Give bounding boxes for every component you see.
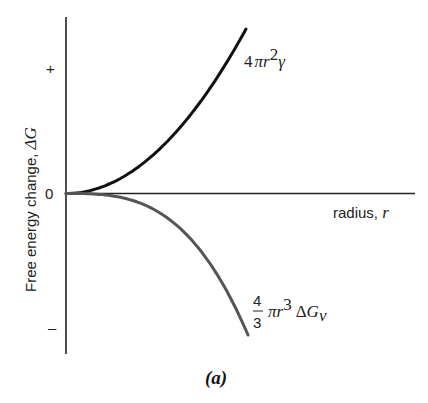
- y-tick-minus: –: [48, 319, 57, 336]
- chart-svg: + 0 – Free energy change, ΔG radius, r 4…: [0, 0, 428, 403]
- volume-energy-label: 4 3 πr3ΔGv: [253, 292, 327, 331]
- y-axis-label: Free energy change, ΔG: [21, 127, 40, 292]
- surface-energy-label: 4πr2γ: [244, 45, 286, 71]
- fraction-numerator: 4: [253, 292, 261, 309]
- figure: + 0 – Free energy change, ΔG radius, r 4…: [0, 0, 428, 403]
- volume-energy-expression: πr3ΔGv: [268, 295, 327, 325]
- figure-caption: (a): [205, 367, 227, 389]
- y-tick-zero: 0: [45, 185, 53, 202]
- y-tick-plus: +: [46, 60, 55, 77]
- surface-energy-curve: [66, 29, 246, 194]
- fraction-denominator: 3: [253, 314, 261, 331]
- x-axis-label: radius, r: [333, 203, 389, 222]
- volume-energy-curve: [66, 194, 248, 336]
